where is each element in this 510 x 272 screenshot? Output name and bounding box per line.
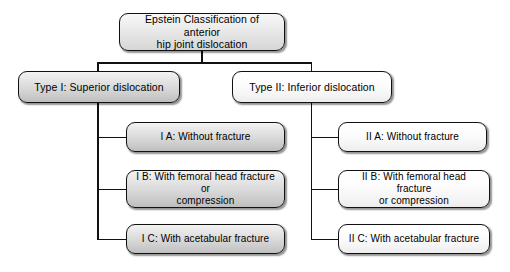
node-type-2: Type II: Inferior dislocation xyxy=(232,71,392,103)
connector-root-to-type-1 xyxy=(97,62,99,71)
connector-root-to-type-2 xyxy=(311,62,313,71)
node-type-1-a-label: I A: Without fracture xyxy=(133,131,278,143)
node-type-2-c: II C: With acetabular fracture xyxy=(338,224,490,254)
node-type-2-a: II A: Without fracture xyxy=(338,122,487,152)
node-type-1-b: I B: With femoral head fracture or compr… xyxy=(126,170,285,208)
node-type-1: Type I: Superior dislocation xyxy=(18,71,180,103)
connector-type-2-a-stub xyxy=(311,137,339,139)
node-type-1-c: I C: With acetabular fracture xyxy=(126,224,285,254)
connector-type-2-trunk xyxy=(311,103,313,239)
node-type-2-b: II B: With femoral head fracture or comp… xyxy=(338,170,490,208)
connector-type-2-b-stub xyxy=(311,189,339,191)
connector-type-2-c-stub xyxy=(311,239,339,241)
node-type-2-label: Type II: Inferior dislocation xyxy=(239,81,385,93)
node-type-1-b-line2: compression xyxy=(133,195,278,207)
connector-type-1-trunk xyxy=(97,103,99,239)
connector-type-1-c-stub xyxy=(97,239,126,241)
connector-type-1-a-stub xyxy=(97,137,126,139)
node-root: Epstein Classification of anterior hip j… xyxy=(119,13,285,51)
node-type-1-b-line1: I B: With femoral head fracture or xyxy=(133,171,278,195)
epstein-classification-flowchart: Epstein Classification of anterior hip j… xyxy=(0,0,510,272)
node-type-2-c-label: II C: With acetabular fracture xyxy=(345,233,483,245)
node-type-2-b-line2: or compression xyxy=(345,195,483,207)
node-type-2-a-label: II A: Without fracture xyxy=(345,131,480,143)
connector-root-split-bar xyxy=(97,62,312,64)
node-type-1-c-label: I C: With acetabular fracture xyxy=(133,233,278,245)
node-type-2-b-line1: II B: With femoral head fracture xyxy=(345,171,483,195)
node-type-1-a: I A: Without fracture xyxy=(126,122,285,152)
connector-type-1-b-stub xyxy=(97,189,126,191)
node-root-line2: hip joint dislocation xyxy=(126,38,278,50)
node-type-1-label: Type I: Superior dislocation xyxy=(25,81,173,93)
node-root-line1: Epstein Classification of anterior xyxy=(126,13,278,38)
